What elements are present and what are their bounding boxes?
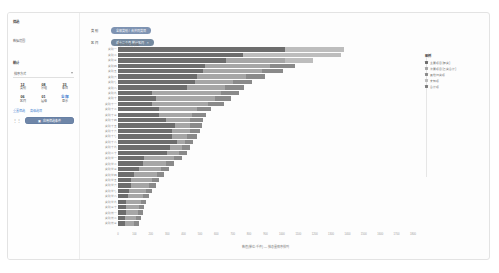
legend-item-0[interactable]: 主要项目(甲类) — [425, 61, 483, 65]
bar-segment-1[interactable] — [205, 64, 271, 68]
bar-row[interactable]: 类别卅三 — [118, 221, 413, 226]
bar-row[interactable]: 类别二十 — [118, 150, 413, 155]
bar-segment-2[interactable] — [190, 123, 201, 127]
sort-select[interactable]: 排序方式 — [13, 70, 74, 78]
bar-segment-1[interactable] — [195, 80, 233, 84]
stacked-bar[interactable] — [118, 91, 239, 95]
bar-segment-1[interactable] — [126, 200, 141, 204]
bar-row[interactable]: 类别廿九 — [118, 199, 413, 204]
bar-segment-0[interactable] — [118, 183, 131, 187]
bar-segment-0[interactable] — [118, 178, 131, 182]
bar-segment-1[interactable] — [125, 221, 135, 225]
bar-segment-2[interactable] — [136, 216, 141, 220]
bar-segment-2[interactable] — [233, 80, 253, 84]
bar-segment-0[interactable] — [118, 140, 177, 144]
stacked-bar[interactable] — [118, 178, 159, 182]
stacked-bar[interactable] — [118, 151, 187, 155]
bar-segment-0[interactable] — [118, 167, 139, 171]
stacked-bar[interactable] — [118, 69, 284, 73]
stacked-bar[interactable] — [118, 172, 164, 176]
bar-row[interactable]: 类别卅二 — [118, 216, 413, 221]
bar-row[interactable]: 类别廿四 — [118, 172, 413, 177]
stacked-bar[interactable] — [118, 210, 143, 214]
bar-segment-0[interactable] — [118, 161, 143, 165]
bar-segment-2[interactable] — [149, 183, 156, 187]
stacked-bar[interactable] — [118, 183, 156, 187]
bar-segment-0[interactable] — [118, 85, 187, 89]
bar-segment-1[interactable] — [226, 58, 285, 62]
bar-row[interactable]: 类别四 — [118, 63, 413, 68]
stacked-bar[interactable] — [118, 53, 341, 57]
bar-segment-2[interactable] — [152, 178, 159, 182]
bar-segment-3[interactable] — [243, 53, 341, 57]
bar-segment-2[interactable] — [138, 210, 143, 214]
bar-segment-0[interactable] — [118, 151, 167, 155]
stacked-bar[interactable] — [118, 118, 203, 122]
stacked-bar[interactable] — [118, 123, 202, 127]
bar-row[interactable]: 类别七 — [118, 80, 413, 85]
stacked-bar[interactable] — [118, 200, 146, 204]
metric-cell-2[interactable]: 33条目 — [55, 83, 74, 91]
sidebar-link-1[interactable]: 高级选项 — [30, 109, 42, 113]
apply-filter-button[interactable]: ▣ 应用筛选条件 — [25, 117, 74, 124]
bar-segment-2[interactable] — [192, 113, 207, 117]
bar-segment-1[interactable] — [172, 134, 187, 138]
bar-segment-1[interactable] — [134, 172, 157, 176]
bar-row[interactable]: 类别八 — [118, 85, 413, 90]
stacked-bar[interactable] — [118, 85, 244, 89]
bar-segment-1[interactable] — [159, 107, 197, 111]
bar-segment-1[interactable] — [172, 129, 190, 133]
bar-segment-0[interactable] — [118, 102, 152, 106]
bar-segment-1[interactable] — [152, 91, 221, 95]
bar-segment-2[interactable] — [225, 85, 245, 89]
stacked-bar[interactable] — [118, 64, 295, 68]
stacked-bar[interactable] — [118, 107, 211, 111]
bar-row[interactable]: 类别十七 — [118, 134, 413, 139]
bar-segment-0[interactable] — [118, 156, 144, 160]
stacked-bar[interactable] — [118, 221, 139, 225]
stacked-bar[interactable] — [118, 216, 141, 220]
bar-segment-1[interactable] — [156, 96, 215, 100]
bar-segment-1[interactable] — [203, 69, 262, 73]
bar-segment-2[interactable] — [139, 205, 144, 209]
bar-segment-3[interactable] — [285, 47, 344, 51]
stacked-bar[interactable] — [118, 102, 225, 106]
stacked-bar[interactable] — [118, 145, 190, 149]
metric-cell-1[interactable]: 08分组 — [34, 83, 53, 91]
bar-segment-2[interactable] — [166, 161, 174, 165]
bar-segment-0[interactable] — [118, 210, 126, 214]
bar-segment-0[interactable] — [118, 107, 159, 111]
bar-segment-2[interactable] — [190, 129, 200, 133]
bar-segment-1[interactable] — [175, 123, 190, 127]
bar-segment-0[interactable] — [118, 118, 166, 122]
stacked-bar[interactable] — [118, 47, 344, 51]
bar-row[interactable]: 类别十六 — [118, 129, 413, 134]
bar-segment-2[interactable] — [270, 64, 295, 68]
bar-row[interactable]: 类别十三 — [118, 112, 413, 117]
bar-segment-0[interactable] — [118, 69, 203, 73]
stacked-bar[interactable] — [118, 113, 207, 117]
bar-row[interactable]: 类别十九 — [118, 145, 413, 150]
bar-segment-0[interactable] — [118, 64, 205, 68]
bar-segment-1[interactable] — [126, 205, 139, 209]
bar-segment-0[interactable] — [118, 134, 172, 138]
bar-segment-2[interactable] — [208, 102, 224, 106]
bar-row[interactable]: 类别十二 — [118, 107, 413, 112]
metric-cell-5[interactable]: 全部显示 — [55, 95, 74, 103]
bar-segment-2[interactable] — [146, 189, 153, 193]
metric-cell-4[interactable]: 01层级 — [34, 95, 53, 103]
bar-row[interactable]: 类别廿八 — [118, 194, 413, 199]
bar-row[interactable]: 类别二 — [118, 52, 413, 57]
bar-segment-2[interactable] — [262, 69, 283, 73]
stacked-bar[interactable] — [118, 156, 182, 160]
legend-item-4[interactable]: 合计项 — [425, 85, 483, 89]
bar-segment-1[interactable] — [129, 189, 145, 193]
bar-segment-1[interactable] — [177, 140, 185, 144]
legend-item-3[interactable]: 未知项 — [425, 79, 483, 83]
bar-segment-2[interactable] — [161, 167, 169, 171]
bar-segment-1[interactable] — [187, 85, 225, 89]
bar-segment-0[interactable] — [118, 194, 128, 198]
bar-row[interactable]: 类别廿七 — [118, 188, 413, 193]
bar-segment-1[interactable] — [159, 113, 192, 117]
bar-row[interactable]: 类别三 — [118, 58, 413, 63]
